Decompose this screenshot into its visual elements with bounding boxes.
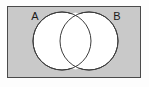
venn-diagram-canvas: A B	[0, 0, 149, 87]
set-label-a: A	[31, 10, 39, 22]
venn-diagram-figure: A B	[0, 0, 149, 87]
set-label-b: B	[113, 10, 120, 22]
